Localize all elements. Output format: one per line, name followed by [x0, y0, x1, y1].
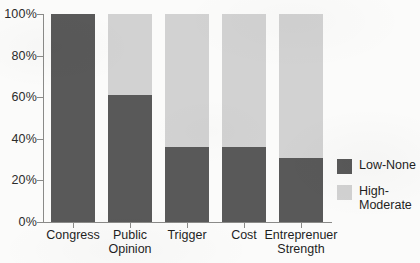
- bar-segment-high-moderate: [165, 14, 209, 147]
- x-axis-category-entreprenuer-strength: Entreprenuer Strength: [253, 228, 349, 256]
- bar-segment-high-moderate: [222, 14, 266, 147]
- bar-public-opinion[interactable]: [108, 14, 152, 222]
- bar-segment-low-none: [108, 95, 152, 222]
- legend-item-high-moderate[interactable]: High- Moderate: [337, 185, 416, 212]
- stacked-bar-chart: 100% 80% 60% 40% 20% 0% Congress Public …: [0, 0, 420, 263]
- bar-entreprenuer-strength[interactable]: [279, 14, 323, 222]
- x-axis-category-line2: Opinion: [82, 242, 178, 256]
- x-axis-category-line2: Strength: [253, 242, 349, 256]
- legend-label: High- Moderate: [359, 185, 412, 212]
- legend-item-low-none[interactable]: Low-None: [337, 159, 416, 174]
- legend-swatch-icon: [337, 185, 352, 200]
- y-axis-label-40: 40%: [11, 132, 37, 146]
- bar-segment-low-none: [222, 147, 266, 222]
- y-axis-tick: [37, 97, 43, 98]
- y-axis-tick: [37, 222, 43, 223]
- bar-segment-low-none: [51, 14, 95, 222]
- y-axis-tick: [37, 139, 43, 140]
- bar-segment-low-none: [165, 147, 209, 222]
- y-axis-label-100: 100%: [4, 7, 37, 21]
- chart-legend: Low-None High- Moderate: [337, 159, 416, 223]
- bar-congress[interactable]: [51, 14, 95, 222]
- y-axis-label-60: 60%: [11, 90, 37, 104]
- legend-label: Low-None: [359, 159, 416, 173]
- y-axis-tick: [37, 180, 43, 181]
- legend-swatch-icon: [337, 159, 352, 174]
- bar-segment-high-moderate: [108, 14, 152, 95]
- plot-area: [43, 14, 325, 222]
- bar-trigger[interactable]: [165, 14, 209, 222]
- bar-segment-high-moderate: [279, 14, 323, 158]
- y-axis-label-80: 80%: [11, 49, 37, 63]
- y-axis-tick: [37, 14, 43, 15]
- x-axis-category-line1: Entreprenuer: [253, 228, 349, 242]
- y-axis-label-20: 20%: [11, 173, 37, 187]
- y-axis-label-0: 0%: [19, 215, 37, 229]
- y-axis-tick: [37, 56, 43, 57]
- y-axis-line: [43, 14, 44, 222]
- bar-cost[interactable]: [222, 14, 266, 222]
- bar-segment-low-none: [279, 158, 323, 222]
